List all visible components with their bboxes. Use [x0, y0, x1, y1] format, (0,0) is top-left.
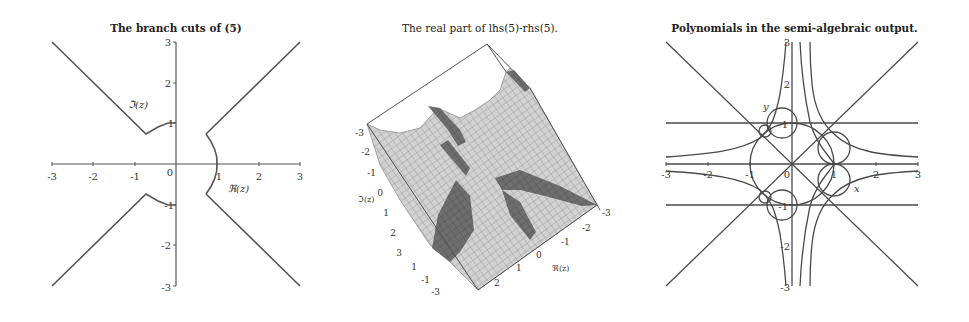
- x-tick-label: 2: [873, 169, 879, 180]
- x-tick-label: -1: [561, 237, 570, 247]
- x-axis-label: x: [854, 183, 860, 194]
- y-tick-label: -2: [780, 241, 790, 252]
- surface-plot: -3 -2 -1 0 1 2 3 1 -1 -3 ℑ(z) -3 -2 -1 0…: [320, 0, 640, 322]
- curve-lower-left: [666, 42, 786, 247]
- y-axis-label: ℑ(z): [358, 195, 374, 204]
- x-tick-label: -3: [661, 169, 671, 180]
- y-tick-label: -1: [367, 168, 376, 178]
- x-tick-label: 1: [216, 171, 222, 182]
- x-tick-label: -2: [88, 171, 98, 182]
- branch-cut-lower-right: [206, 194, 300, 286]
- y-tick-label: -3: [161, 282, 171, 293]
- branch-cuts-plot: -3 -2 -1 0 1 2 3 3 2 1 -1 -2 -3 ℜ(z) ℑ(z…: [0, 0, 330, 322]
- z-tick-label: -3: [431, 287, 440, 297]
- x-tick-label: 0: [784, 169, 790, 180]
- y-tick-label: 2: [784, 79, 790, 90]
- polynomials-plot: -3 -2 -1 0 1 2 3 3 2 1 -1 -2 -3 x y: [640, 0, 969, 322]
- y-tick-label: 3: [396, 248, 402, 258]
- x-tick-label: 0: [167, 167, 173, 178]
- y-tick-label: -3: [780, 282, 790, 293]
- y-tick-label: -2: [361, 147, 370, 157]
- x-axis-label: ℜ(z): [228, 183, 249, 194]
- panel-branch-cuts: The branch cuts of (5): [0, 0, 330, 322]
- x-tick-label: -1: [745, 169, 755, 180]
- x-tick-label: 2: [494, 278, 500, 288]
- z-tick-label: -1: [421, 275, 430, 285]
- y-tick-label: -1: [778, 201, 788, 212]
- branch-cut-lower-left: [52, 194, 176, 286]
- z-tick-label: 1: [411, 262, 417, 272]
- y-tick-label: 1: [782, 119, 788, 130]
- y-tick-label: 3: [165, 37, 171, 48]
- y-tick-label: -1: [164, 200, 174, 211]
- x-tick-label: -1: [130, 171, 140, 182]
- y-tick-label: 0: [377, 188, 383, 198]
- x-tick-label: -3: [47, 171, 57, 182]
- y-tick-label: -2: [161, 240, 171, 251]
- x-axis-label: ℜ(z): [552, 264, 569, 273]
- y-axis-label: y: [762, 101, 769, 112]
- x-tick-label: -3: [602, 208, 611, 218]
- branch-cut-upper-right: [206, 42, 300, 134]
- x-tick-label: 3: [297, 171, 303, 182]
- y-tick-label: 2: [390, 228, 396, 238]
- box-edge: [367, 44, 487, 124]
- y-tick-label: 2: [165, 78, 171, 89]
- x-tick-label: -2: [582, 223, 591, 233]
- y-tick-label: -3: [355, 128, 364, 138]
- panel-polynomials: Polynomials in the semi-algebraic output…: [640, 0, 969, 322]
- x-tick-label: 0: [536, 250, 542, 260]
- branch-cut-upper-left: [52, 42, 176, 134]
- x-tick-label: 1: [516, 263, 522, 273]
- x-tick-label: 1: [831, 169, 837, 180]
- y-tick-label: 1: [168, 118, 174, 129]
- y-tick-label: 1: [383, 208, 389, 218]
- x-tick-label: 3: [915, 169, 921, 180]
- curve-steep-upper: [800, 42, 834, 164]
- curve-steep-lower: [800, 164, 834, 286]
- x-tick-label: -2: [703, 169, 713, 180]
- x-tick-label: 2: [256, 171, 262, 182]
- y-axis-label: ℑ(z): [128, 99, 148, 110]
- y-tick-label: 3: [784, 37, 790, 48]
- panel-real-part-surface: The real part of lhs(5)-rhs(5).: [320, 0, 640, 322]
